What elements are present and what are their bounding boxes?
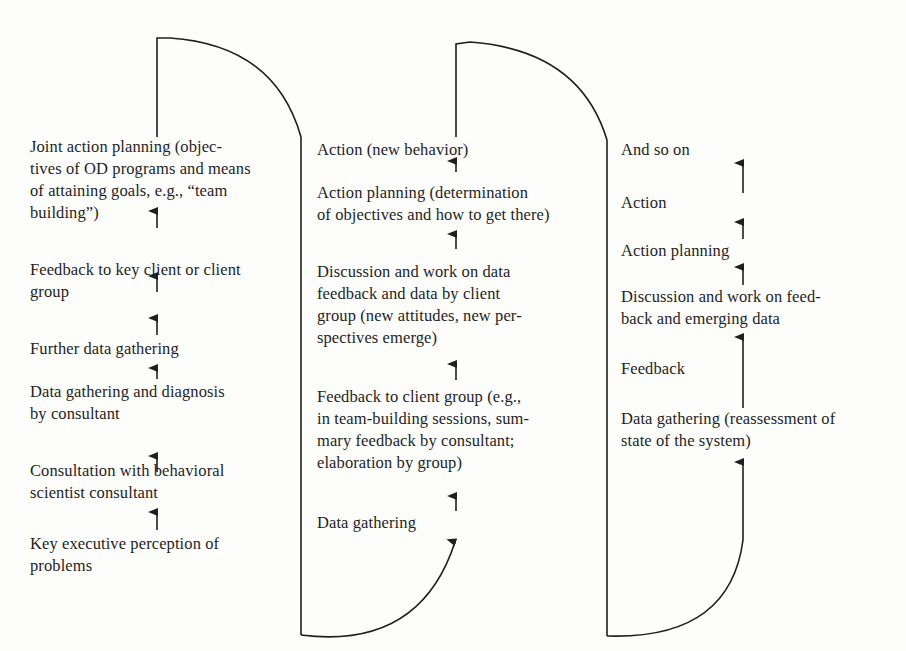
- step-key-executive-perception: Key executive perception of problems: [30, 533, 219, 577]
- step-data-gathering: Data gathering: [317, 512, 416, 534]
- loop-1-bottom: [301, 542, 455, 637]
- step-discussion-work-on-data: Discussion and work on data feedback and…: [317, 261, 522, 349]
- loop-2-bottom: [607, 462, 743, 636]
- step-action-planning: Action planning: [621, 240, 729, 262]
- step-feedback: Feedback: [621, 358, 685, 380]
- step-feedback-to-key-client: Feedback to key client or client group: [30, 259, 241, 303]
- step-and-so-on: And so on: [621, 139, 690, 161]
- step-data-gathering-diagnosis: Data gathering and diagnosis by consulta…: [30, 381, 225, 425]
- step-action-planning-determination: Action planning (determination of object…: [317, 182, 550, 226]
- step-feedback-to-client-group: Feedback to client group (e.g., in team-…: [317, 386, 529, 474]
- step-joint-action-planning: Joint action planning (objec- tives of O…: [30, 136, 251, 224]
- step-consultation-behavioral-scientist: Consultation with behavioral scientist c…: [30, 460, 224, 504]
- loop-2-top: [456, 42, 607, 140]
- step-further-data-gathering: Further data gathering: [30, 338, 179, 360]
- step-discussion-feedback-emerging-data: Discussion and work on feed- back and em…: [621, 286, 821, 330]
- step-action-new-behavior: Action (new behavior): [317, 139, 468, 161]
- loop-1-top: [157, 38, 301, 137]
- step-action: Action: [621, 192, 667, 214]
- action-research-cycle-diagram: Joint action planning (objec- tives of O…: [0, 0, 906, 651]
- step-data-gathering-reassessment: Data gathering (reassessment of state of…: [621, 408, 835, 452]
